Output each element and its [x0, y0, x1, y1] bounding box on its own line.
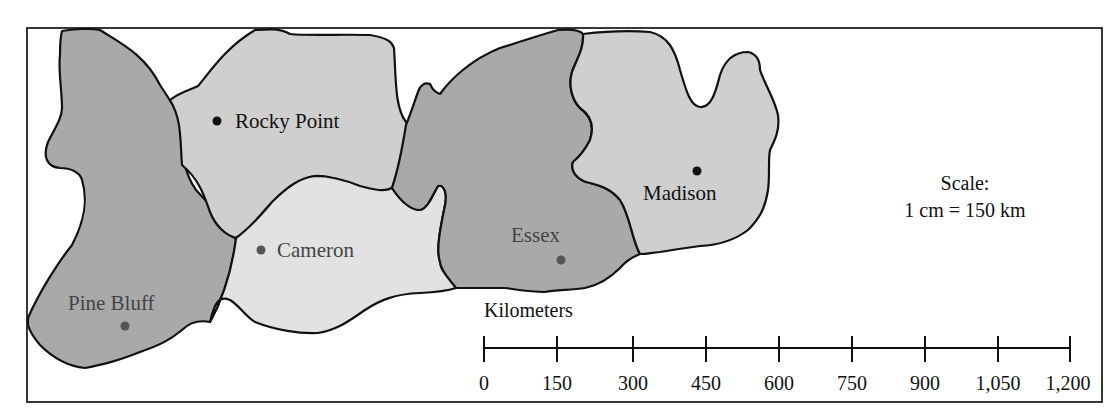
- scale-tick-label: 150: [542, 373, 572, 393]
- scale-tick-label: 300: [618, 373, 648, 393]
- city-dot-rocky-point: [213, 117, 222, 126]
- scale-tick-label: 900: [910, 373, 940, 393]
- scale-tick-label: 450: [691, 373, 721, 393]
- city-label-rocky-point: Rocky Point: [235, 111, 339, 132]
- scale-tick-label: 600: [764, 373, 794, 393]
- scale-bar: [484, 336, 1070, 362]
- city-label-madison: Madison: [643, 183, 717, 204]
- scale-tick-label: 1,200: [1046, 373, 1091, 393]
- city-dot-essex: [557, 256, 566, 265]
- scale-note-title: Scale:: [865, 170, 1065, 197]
- scale-tick-label: 0: [479, 373, 489, 393]
- city-label-cameron: Cameron: [277, 240, 354, 261]
- scale-bar-title: Kilometers: [484, 300, 573, 320]
- city-dot-cameron: [257, 246, 266, 255]
- city-label-pine-bluff: Pine Bluff: [68, 293, 155, 314]
- scale-note-ratio: 1 cm = 150 km: [865, 197, 1065, 224]
- scale-tick-label: 750: [837, 373, 867, 393]
- city-dot-pine-bluff: [121, 322, 130, 331]
- scale-note: Scale: 1 cm = 150 km: [865, 170, 1065, 224]
- city-dot-madison: [693, 167, 702, 176]
- city-label-essex: Essex: [511, 225, 560, 246]
- scale-tick-label: 1,050: [976, 373, 1021, 393]
